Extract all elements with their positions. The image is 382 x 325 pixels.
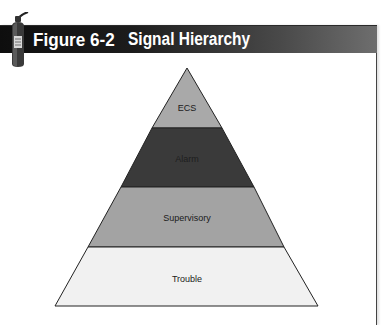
layer-label-alarm: Alarm bbox=[175, 154, 199, 164]
layer-label-supervisory: Supervisory bbox=[163, 213, 211, 223]
layer-ecs bbox=[152, 68, 222, 128]
layer-label-ecs: ECS bbox=[178, 103, 197, 113]
layer-label-trouble: Trouble bbox=[172, 274, 202, 284]
